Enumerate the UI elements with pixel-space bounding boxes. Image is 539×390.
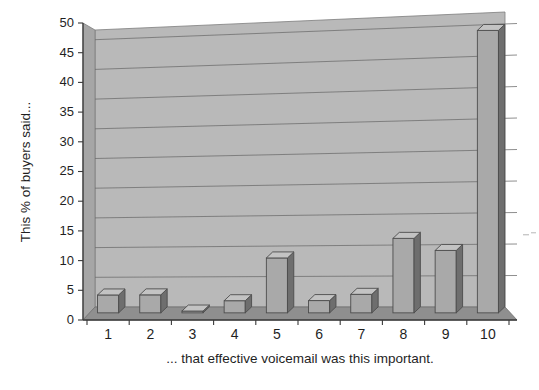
x-axis-title: ... that effective voicemail was this im… <box>166 351 434 366</box>
bar-side <box>498 24 504 312</box>
x-axis-ticks: 12345678910 <box>87 320 509 342</box>
bar-face <box>140 295 161 313</box>
bar-5 <box>266 252 293 313</box>
y-tick-label: 40 <box>60 74 74 89</box>
x-tick-label: 9 <box>442 326 450 342</box>
bar-7 <box>351 288 378 313</box>
x-tick-label: 7 <box>357 326 365 342</box>
y-tick-label: 0 <box>67 312 74 327</box>
bar-face <box>477 30 498 312</box>
y-axis-ticks: 05101520253035404550 <box>60 15 83 327</box>
bar-9 <box>435 244 462 312</box>
x-tick-label: 5 <box>273 326 281 342</box>
y-tick-label: 50 <box>60 15 74 30</box>
bar-face <box>98 295 119 313</box>
bar-face <box>351 294 372 313</box>
plot-left-wall <box>83 23 95 320</box>
bar-face <box>393 238 414 312</box>
y-tick-label: 35 <box>60 104 74 119</box>
y-tick-label: 25 <box>60 163 74 178</box>
y-tick-label: 15 <box>60 223 74 238</box>
bar-6 <box>309 295 336 313</box>
bar-face <box>224 301 245 313</box>
bar-side <box>287 252 293 313</box>
bar-2 <box>140 289 167 313</box>
bar-10 <box>477 24 504 312</box>
bar-1 <box>98 289 125 313</box>
bar-8 <box>393 232 420 312</box>
bar-side <box>414 232 420 312</box>
x-tick-label: 2 <box>146 326 154 342</box>
y-tick-label: 20 <box>60 193 74 208</box>
x-tick-label: 10 <box>480 326 496 342</box>
x-tick-label: 6 <box>315 326 323 342</box>
bar-face <box>309 301 330 313</box>
scan-artifact <box>523 234 529 235</box>
x-tick-label: 1 <box>104 326 112 342</box>
y-tick-label: 30 <box>60 134 74 149</box>
bar-side <box>456 244 462 312</box>
bar-4 <box>224 295 251 313</box>
chart-container: 05101520253035404550 12345678910 ... tha… <box>0 0 539 390</box>
x-tick-label: 4 <box>231 326 239 342</box>
y-tick-label: 10 <box>60 253 74 268</box>
scan-artifact <box>531 232 536 233</box>
bar-chart: 05101520253035404550 12345678910 ... tha… <box>0 0 539 390</box>
x-tick-label: 8 <box>400 326 408 342</box>
y-tick-label: 45 <box>60 45 74 60</box>
x-tick-label: 3 <box>189 326 197 342</box>
bar-face <box>266 258 287 313</box>
y-tick-label: 5 <box>67 282 74 297</box>
y-axis-title: This % of buyers said... <box>18 102 33 242</box>
bar-face <box>435 250 456 312</box>
